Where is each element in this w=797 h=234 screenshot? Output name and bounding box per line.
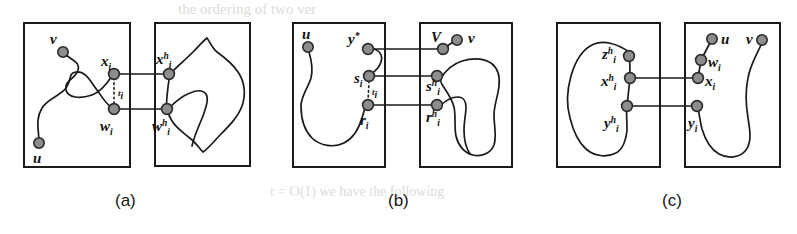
caption-a: (a) <box>115 191 136 210</box>
panel-b-node-u[interactable] <box>303 42 313 52</box>
panel-c-node-wi[interactable] <box>696 55 707 66</box>
panel-c-node-zih[interactable] <box>624 51 635 62</box>
panel-b-node-V[interactable] <box>438 44 449 55</box>
panel-b-label-u: u <box>302 26 310 42</box>
panel-c-node-xih[interactable] <box>625 73 636 84</box>
panel-a-node-wi[interactable] <box>109 104 120 115</box>
panel-a-node-wih[interactable] <box>162 104 173 115</box>
panel-c-node-xi[interactable] <box>693 73 704 84</box>
panel-c-label-u: u <box>721 31 729 47</box>
panel-b-node-si[interactable] <box>364 71 375 82</box>
panel-b-label-v: v <box>468 30 475 46</box>
panel-b-node-ystar[interactable] <box>363 44 374 55</box>
figure-container: the ordering of two ver t in Fi G G C th… <box>0 0 797 234</box>
panel-a-node-xih[interactable] <box>164 69 175 80</box>
panel-a-node-u[interactable] <box>34 138 44 148</box>
caption-b: (b) <box>388 191 409 210</box>
bleed-text-0: the ordering of two ver <box>178 1 316 17</box>
panel-c-left-box <box>557 23 660 167</box>
panel-c-label-v: v <box>746 31 753 47</box>
panel-a-node-v[interactable] <box>58 47 68 57</box>
panel-a-label-v: v <box>50 31 57 47</box>
panel-a-label-u: u <box>33 150 41 166</box>
panel-c-node-v[interactable] <box>757 35 767 45</box>
caption-c: (c) <box>662 191 682 210</box>
panel-c-node-u[interactable] <box>707 34 717 44</box>
figure-svg: the ordering of two ver t in Fi G G C th… <box>0 0 797 234</box>
panel-b-node-ri[interactable] <box>363 100 374 111</box>
bleed-text-4: r = O(1) we have the following <box>270 184 444 200</box>
panel-b-node-v[interactable] <box>452 35 462 45</box>
panel-c-node-yih[interactable] <box>622 101 633 112</box>
panel-c-node-yi[interactable] <box>692 101 703 112</box>
panel-a-right-box <box>155 23 250 166</box>
